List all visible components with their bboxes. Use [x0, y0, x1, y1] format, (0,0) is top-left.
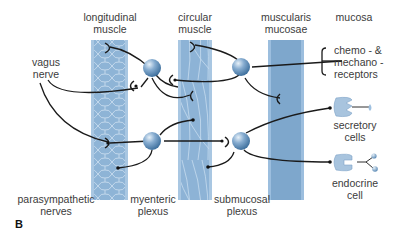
label-circular-muscle: circular muscle [170, 11, 220, 35]
label-vagus-nerve: vagus nerve [28, 56, 64, 80]
submucosal-neuron-upper [232, 58, 250, 76]
label-secretory-cells: secretory cells [330, 119, 380, 143]
label-parasympathetic-nerves: parasympathetic nerves [14, 193, 98, 217]
label-longitudinal-muscle: longitudinal muscle [81, 11, 139, 35]
label-submucosal-plexus: submucosal plexus [210, 193, 274, 217]
panel-letter: B [15, 218, 23, 230]
label-receptors: chemo - & mechano - receptors [334, 44, 394, 80]
label-myenteric-plexus: myenteric plexus [126, 193, 180, 217]
secretory-cell-icon [334, 97, 372, 116]
submucosal-neuron-lower [232, 132, 250, 150]
myenteric-neuron-lower [143, 132, 161, 150]
label-muscularis-mucosae: muscularis mucosae [257, 11, 315, 35]
label-endocrine-cell: endocrine cell [330, 177, 380, 201]
longitudinal-muscle-layer [91, 40, 128, 200]
myenteric-neuron-upper [143, 59, 161, 77]
label-mucosa: mucosa [334, 11, 374, 23]
endocrine-cell-icon [334, 153, 378, 171]
circular-muscle-layer [178, 40, 212, 200]
